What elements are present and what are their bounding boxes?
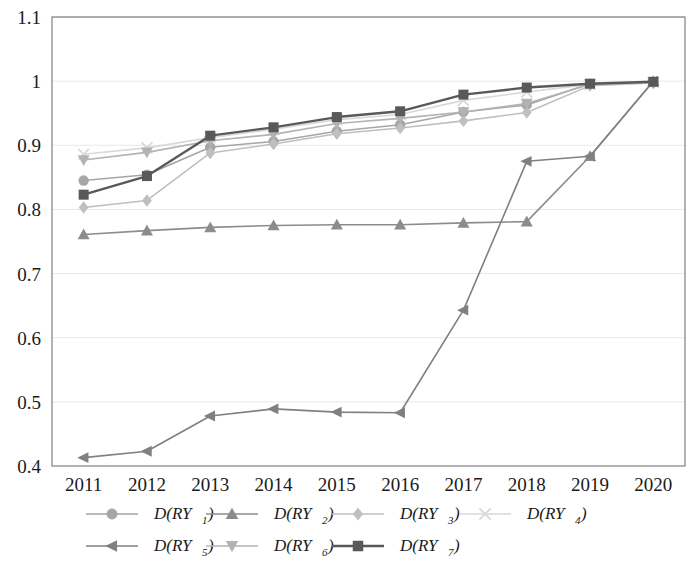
legend-label-subscript: 3 xyxy=(447,514,454,526)
x-tick-label: 2015 xyxy=(318,474,356,495)
legend-label-paren: ) xyxy=(453,536,460,555)
line-chart-figure: 0.40.50.60.70.80.911.1 20112012201320142… xyxy=(0,0,694,572)
data-point-marker xyxy=(107,509,118,520)
x-tick-label: 2018 xyxy=(508,474,546,495)
legend-label: D(RY xyxy=(399,504,439,523)
data-point-marker xyxy=(269,122,279,132)
x-tick-label: 2011 xyxy=(65,474,102,495)
legend-label-paren: ) xyxy=(453,504,460,523)
legend-label: D(RY xyxy=(273,504,313,523)
x-tick-label: 2017 xyxy=(444,474,482,495)
data-point-marker xyxy=(78,175,88,185)
x-tick-label: 2019 xyxy=(571,474,609,495)
legend-label: D(RY xyxy=(273,536,313,555)
y-tick-label: 0.6 xyxy=(17,328,41,349)
legend-label-subscript: 1 xyxy=(202,514,208,526)
data-point-marker xyxy=(205,131,215,141)
y-tick-label: 0.7 xyxy=(17,264,41,285)
data-point-marker xyxy=(648,77,658,87)
legend-label: D(RY xyxy=(153,504,193,523)
y-tick-label: 0.9 xyxy=(17,135,41,156)
data-point-marker xyxy=(142,171,152,181)
data-point-marker xyxy=(458,90,468,100)
data-point-marker xyxy=(353,541,364,552)
legend-label: D(RY xyxy=(526,504,566,523)
data-point-marker xyxy=(395,106,405,116)
x-tick-label: 2014 xyxy=(255,474,294,495)
legend-label-paren: ) xyxy=(580,504,587,523)
y-tick-label: 0.8 xyxy=(17,199,41,220)
legend-label: D(RY xyxy=(399,536,439,555)
x-tick-label: 2012 xyxy=(128,474,166,495)
chart-container: 0.40.50.60.70.80.911.1 20112012201320142… xyxy=(0,0,694,572)
y-tick-label: 0.4 xyxy=(17,456,41,477)
data-point-marker xyxy=(79,190,89,200)
y-tick-label: 1 xyxy=(32,71,42,92)
legend-label: D(RY xyxy=(153,536,193,555)
x-tick-label: 2020 xyxy=(634,474,672,495)
x-tick-label: 2013 xyxy=(191,474,229,495)
data-point-marker xyxy=(585,79,595,89)
y-tick-label: 0.5 xyxy=(17,392,41,413)
data-point-marker xyxy=(332,112,342,122)
y-tick-label: 1.1 xyxy=(17,7,41,28)
data-point-marker xyxy=(522,83,532,93)
x-tick-label: 2016 xyxy=(381,474,419,495)
